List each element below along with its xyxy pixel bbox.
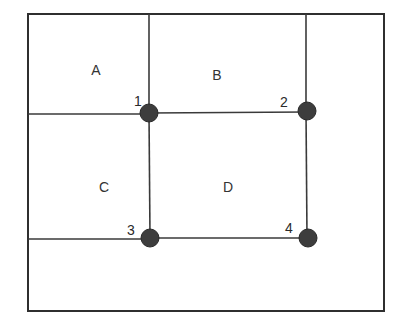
node-group: 1234 <box>127 93 317 247</box>
node-3 <box>141 229 159 247</box>
region-label-c: C <box>99 179 109 195</box>
node-4 <box>299 229 317 247</box>
node-label-1: 1 <box>134 93 142 109</box>
edge-2-4 <box>306 111 307 238</box>
node-label-4: 4 <box>285 220 293 236</box>
region-label-b: B <box>212 67 221 83</box>
edge-1-3 <box>149 113 150 238</box>
node-2 <box>298 102 316 120</box>
node-label-2: 2 <box>280 94 288 110</box>
region-label-group: ABCD <box>91 62 233 195</box>
outer-frame <box>28 14 384 311</box>
node-1 <box>140 104 158 122</box>
node-label-3: 3 <box>127 222 135 238</box>
edge-1-2 <box>149 112 307 113</box>
region-label-d: D <box>223 179 233 195</box>
partition-diagram: 1234 ABCD <box>0 0 405 329</box>
edge-group <box>28 14 308 239</box>
region-label-a: A <box>91 62 101 78</box>
